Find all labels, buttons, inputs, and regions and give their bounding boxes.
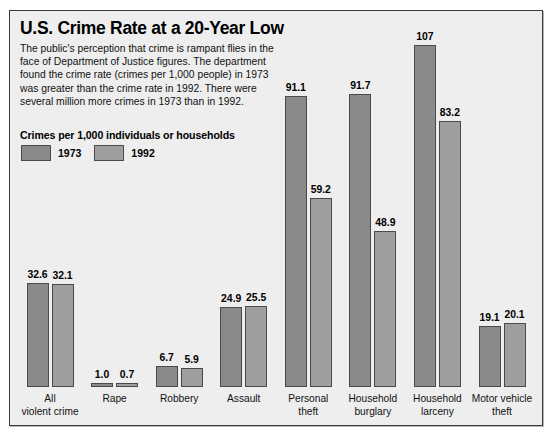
bar-rect[interactable]: [156, 366, 178, 387]
bar-1973[interactable]: 1.0: [91, 383, 113, 387]
bar-rect[interactable]: [91, 383, 113, 387]
bar-rect[interactable]: [414, 45, 436, 387]
bar-rect[interactable]: [310, 198, 332, 387]
bar-1992[interactable]: 32.1: [52, 284, 74, 387]
bar-1973[interactable]: 107: [414, 45, 436, 387]
category-label: Assault: [227, 393, 260, 406]
bar-1992[interactable]: 48.9: [374, 231, 396, 387]
bar-value-label: 32.1: [52, 270, 72, 281]
category-label: Allviolent crime: [21, 393, 78, 418]
bar-group: 1.00.7Rape: [91, 41, 138, 387]
bar-group: 32.632.1Allviolent crime: [27, 41, 74, 387]
bar-1973[interactable]: 91.1: [285, 96, 307, 387]
bar-group: 6.75.9Robbery: [156, 41, 203, 387]
bar-rect[interactable]: [374, 231, 396, 387]
bar-pair: 10783.2: [414, 45, 461, 387]
bar-1992[interactable]: 0.7: [116, 383, 138, 387]
bar-value-label: 107: [416, 31, 433, 42]
bar-rect[interactable]: [439, 121, 461, 387]
category-label: Householdburglary: [348, 393, 397, 418]
bar-rect[interactable]: [349, 94, 371, 387]
bar-value-label: 19.1: [479, 312, 499, 323]
infographic-panel: U.S. Crime Rate at a 20-Year Low The pub…: [9, 10, 543, 426]
bar-value-label: 5.9: [184, 354, 198, 365]
bar-value-label: 20.1: [504, 309, 524, 320]
bar-rect[interactable]: [181, 368, 203, 387]
bar-value-label: 48.9: [375, 217, 395, 228]
bar-group: 19.120.1Motor vehicletheft: [479, 41, 526, 387]
bar-rect[interactable]: [479, 326, 501, 387]
category-label: Motor vehicletheft: [472, 393, 533, 418]
bar-rect[interactable]: [245, 306, 267, 388]
bar-1992[interactable]: 5.9: [181, 368, 203, 387]
bar-pair: 91.748.9: [349, 94, 396, 387]
bar-value-label: 91.1: [286, 82, 306, 93]
bar-value-label: 6.7: [159, 352, 173, 363]
bar-rect[interactable]: [504, 323, 526, 387]
bar-rect[interactable]: [116, 383, 138, 387]
category-label: Householdlarceny: [413, 393, 462, 418]
bar-rect[interactable]: [285, 96, 307, 387]
bar-1992[interactable]: 20.1: [504, 323, 526, 387]
bar-value-label: 83.2: [440, 107, 460, 118]
bar-pair: 91.159.2: [285, 96, 332, 387]
bar-value-label: 91.7: [350, 80, 370, 91]
bar-pair: 1.00.7: [91, 383, 138, 387]
bar-chart-plot: 32.632.1Allviolent crime1.00.7Rape6.75.9…: [10, 11, 543, 426]
bar-pair: 19.120.1: [479, 323, 526, 387]
bar-rect[interactable]: [52, 284, 74, 387]
bar-group: 91.748.9Householdburglary: [349, 41, 396, 387]
bar-value-label: 24.9: [221, 293, 241, 304]
bar-1992[interactable]: 25.5: [245, 306, 267, 388]
bar-value-label: 0.7: [120, 369, 134, 380]
category-label: Personaltheft: [288, 393, 328, 418]
bar-pair: 6.75.9: [156, 366, 203, 387]
bar-group: 24.925.5Assault: [220, 41, 267, 387]
bar-group: 10783.2Householdlarceny: [414, 41, 461, 387]
bar-group: 91.159.2Personaltheft: [285, 41, 332, 387]
bar-1992[interactable]: 83.2: [439, 121, 461, 387]
category-label: Rape: [102, 393, 126, 406]
bar-1992[interactable]: 59.2: [310, 198, 332, 387]
bar-1973[interactable]: 32.6: [27, 283, 49, 387]
bar-pair: 32.632.1: [27, 283, 74, 387]
bar-1973[interactable]: 91.7: [349, 94, 371, 387]
bar-pair: 24.925.5: [220, 306, 267, 388]
bar-rect[interactable]: [27, 283, 49, 387]
bar-value-label: 32.6: [27, 269, 47, 280]
bar-1973[interactable]: 19.1: [479, 326, 501, 387]
bar-value-label: 59.2: [311, 184, 331, 195]
bar-1973[interactable]: 6.7: [156, 366, 178, 387]
bar-rect[interactable]: [220, 307, 242, 387]
category-label: Robbery: [160, 393, 199, 406]
bar-value-label: 25.5: [246, 292, 266, 303]
bar-value-label: 1.0: [95, 369, 109, 380]
bar-1973[interactable]: 24.9: [220, 307, 242, 387]
